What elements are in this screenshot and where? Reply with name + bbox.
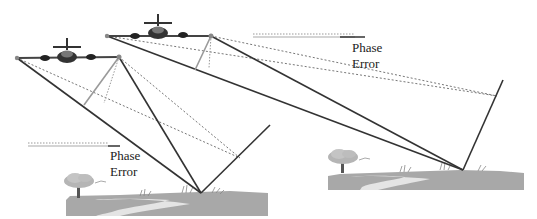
tree-icon [64, 173, 106, 198]
phase-error-indicator-right [253, 34, 365, 37]
ground-left [66, 185, 268, 216]
tree-icon [328, 149, 370, 173]
right-scene [105, 14, 524, 190]
airplane-icon-left [15, 38, 122, 63]
phase-label-right: Phase [352, 40, 382, 56]
insar-diagram [0, 0, 537, 219]
phase-error-indicator-left [28, 143, 120, 146]
left-scene [15, 38, 270, 216]
phase-label-left: Phase [110, 148, 140, 164]
error-label-right: Error [352, 56, 379, 72]
error-label-left: Error [110, 164, 137, 180]
airplane-icon-right [105, 14, 214, 39]
ground-right [328, 162, 524, 190]
